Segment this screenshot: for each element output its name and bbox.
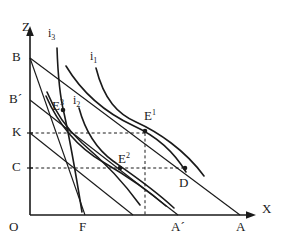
x-axis-label: X [262, 202, 271, 215]
y-mark-B: B [12, 50, 21, 63]
x-mark-A: A [236, 220, 245, 233]
curve-label-i3-sub: 3 [51, 33, 55, 42]
y-axis-label: Z [22, 20, 30, 33]
diagram-canvas [0, 0, 283, 250]
point-label-E1: E1 [144, 109, 156, 122]
point-marker-D [183, 166, 188, 171]
point-marker-E2 [118, 166, 123, 171]
point-label-E2: E2 [118, 152, 130, 165]
point-label-E1-base: E [144, 108, 152, 123]
y-mark-C: C [12, 160, 21, 173]
budget-line-B-A [30, 58, 240, 215]
point-label-E2-base: E [118, 151, 126, 166]
curve-label-i1: i1 [90, 50, 97, 62]
origin-label: O [9, 220, 18, 233]
point-label-E2-sup: 2 [126, 151, 130, 160]
x-mark-A-prime: A´ [171, 220, 185, 233]
budget-line-K-lower [30, 133, 133, 215]
curve-label-i2: i2 [73, 94, 80, 106]
budget-lines-group [30, 58, 240, 215]
y-mark-B-prime: B´ [9, 92, 22, 105]
point-label-E3: E3 [52, 99, 64, 112]
x-mark-F: F [79, 220, 86, 233]
point-label-E1-sup: 1 [152, 108, 156, 117]
point-label-D: D [179, 176, 188, 189]
point-label-E3-base: E [52, 98, 60, 113]
curve-label-i1-sub: 1 [93, 56, 97, 65]
y-mark-K: K [12, 125, 21, 138]
point-marker-E1 [143, 129, 148, 134]
curve-label-i2-sub: 2 [76, 100, 80, 109]
economics-indifference-curve-diagram: Z X O B B´ K C F A´ A i3 i1 i2 E1 E2 E3 … [0, 0, 283, 250]
x-axis-arrowhead [246, 211, 256, 219]
curve-label-i3: i3 [48, 27, 55, 39]
point-label-E3-sup: 3 [60, 98, 64, 107]
